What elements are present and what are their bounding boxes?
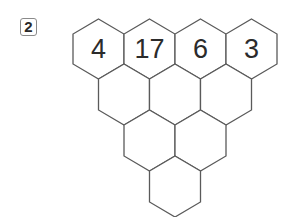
- hex-value-r1-c4: 3: [227, 34, 277, 64]
- hex-value-r1-c3: 6: [176, 34, 226, 64]
- hex-value-r1-c1: 4: [74, 34, 124, 64]
- hexagon-pyramid: [0, 0, 288, 217]
- hex-value-r1-c2: 17: [125, 34, 175, 64]
- hex-row-2: [99, 64, 252, 125]
